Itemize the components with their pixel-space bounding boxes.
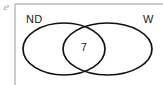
corner-mark-glyph: ℯ <box>3 2 10 12</box>
venn-diagram-canvas: ℯ ND W 7 <box>0 0 163 85</box>
venn-circle-right-w <box>63 23 152 75</box>
set-label-left-nd: ND <box>26 13 43 25</box>
venn-circle-left-nd <box>23 23 105 75</box>
set-label-right-w: W <box>143 13 154 25</box>
venn-diagram-figure: ℯ ND W 7 <box>0 0 163 85</box>
region-count-intersection: 7 <box>81 41 87 53</box>
